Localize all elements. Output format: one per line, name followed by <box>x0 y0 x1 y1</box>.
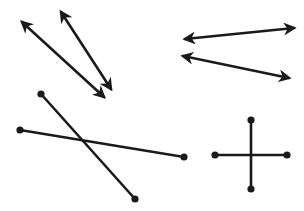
endpoint-dot-icon <box>283 151 290 158</box>
endpoint-dot-icon <box>16 126 23 133</box>
diagram-layer <box>16 12 294 203</box>
double-arrow-line <box>185 28 294 39</box>
segments-bottom-right <box>211 116 290 192</box>
endpoint-dot-icon <box>211 151 218 158</box>
double-arrow-line <box>183 56 289 78</box>
lines-top-right <box>183 28 294 78</box>
endpoint-dot-icon <box>131 195 138 202</box>
lines-top-left <box>22 12 111 97</box>
endpoint-dot-icon <box>37 90 44 97</box>
line-segment <box>20 130 184 157</box>
endpoint-dot-icon <box>247 116 254 123</box>
endpoint-dot-icon <box>180 153 187 160</box>
endpoint-dot-icon <box>247 185 254 192</box>
double-arrow-line <box>61 12 111 89</box>
segments-bottom-left <box>16 90 187 202</box>
geometry-diagram <box>0 0 304 211</box>
